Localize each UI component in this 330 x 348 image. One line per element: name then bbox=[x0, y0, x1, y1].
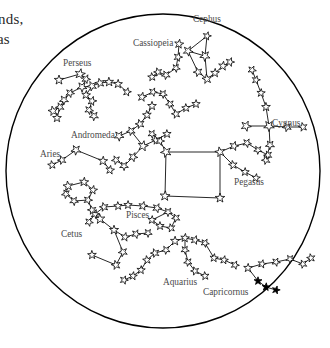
star-glyph bbox=[61, 190, 70, 199]
star-glyph bbox=[163, 130, 171, 138]
star-glyph bbox=[231, 261, 239, 269]
stars-layer bbox=[48, 32, 315, 294]
star-glyph bbox=[82, 75, 91, 84]
star-glyph bbox=[55, 103, 64, 112]
star-glyph bbox=[114, 132, 124, 142]
star-glyph bbox=[202, 74, 211, 83]
star-glyph bbox=[171, 110, 179, 119]
constellation-label-capricornus: Capricornus bbox=[203, 287, 249, 297]
star-glyph bbox=[203, 32, 211, 40]
star-glyph bbox=[241, 168, 249, 176]
star-glyph bbox=[258, 260, 266, 268]
star-glyph bbox=[53, 113, 62, 121]
constellation-label-cygnus: Cygnus bbox=[272, 118, 301, 128]
star-glyph bbox=[254, 146, 262, 154]
star-glyph bbox=[243, 139, 252, 148]
star-glyph bbox=[148, 73, 156, 81]
star-glyph bbox=[71, 146, 81, 156]
star-glyph bbox=[201, 272, 209, 280]
star-glyph bbox=[109, 225, 118, 234]
sky-map-svg: PerseusCassiopeiaCephusCygnusAndromedaAr… bbox=[0, 0, 330, 348]
star-glyph bbox=[230, 141, 239, 150]
star-glyph bbox=[124, 201, 132, 209]
star-glyph bbox=[273, 286, 281, 294]
star-glyph bbox=[48, 161, 56, 169]
star-glyph bbox=[54, 75, 64, 84]
star-glyph bbox=[191, 267, 199, 275]
star-glyph bbox=[161, 71, 170, 80]
star-glyph bbox=[77, 83, 87, 92]
constellation-label-cassiopeia: Cassiopeia bbox=[133, 38, 173, 48]
star-glyph bbox=[156, 222, 164, 230]
star-glyph bbox=[120, 276, 128, 284]
star-glyph bbox=[219, 61, 228, 70]
star-glyph bbox=[143, 256, 151, 264]
star-glyph bbox=[299, 260, 307, 268]
star-glyph bbox=[159, 90, 167, 98]
constellation-label-pisces: Pisces bbox=[126, 210, 150, 220]
star-glyph bbox=[164, 208, 173, 216]
constellation-line bbox=[165, 196, 220, 198]
star-glyph bbox=[162, 246, 170, 254]
star-glyph bbox=[111, 260, 120, 269]
star-glyph bbox=[166, 100, 174, 108]
star-glyph bbox=[257, 89, 265, 97]
star-glyph bbox=[70, 197, 79, 205]
constellation-labels-layer: PerseusCassiopeiaCephusCygnusAndromedaAr… bbox=[40, 14, 301, 297]
constellation-label-cetus: Cetus bbox=[61, 229, 83, 239]
star-glyph bbox=[63, 181, 72, 190]
constellation-label-cephus: Cephus bbox=[193, 14, 221, 24]
star-glyph bbox=[153, 204, 162, 213]
constellation-label-aquarius: Aquarius bbox=[163, 277, 197, 287]
star-glyph bbox=[89, 185, 98, 194]
star-glyph bbox=[88, 250, 97, 258]
star-glyph bbox=[104, 77, 113, 86]
star-glyph bbox=[248, 66, 256, 74]
star-glyph bbox=[220, 256, 228, 264]
star-glyph bbox=[121, 232, 130, 241]
star-glyph bbox=[89, 112, 98, 121]
star-glyph bbox=[191, 236, 199, 245]
star-glyph bbox=[215, 147, 225, 157]
star-glyph bbox=[252, 76, 260, 84]
star-glyph bbox=[85, 218, 93, 226]
star-glyph bbox=[210, 254, 218, 262]
star-glyph bbox=[167, 224, 175, 232]
star-glyph bbox=[272, 258, 280, 266]
star-glyph bbox=[111, 156, 120, 165]
star-glyph bbox=[137, 266, 145, 274]
star-glyph bbox=[192, 100, 200, 108]
constellation-label-aries: Aries bbox=[40, 149, 61, 159]
star-glyph bbox=[182, 104, 190, 112]
star-glyph bbox=[123, 88, 131, 96]
star-glyph bbox=[174, 53, 182, 62]
star-glyph bbox=[148, 101, 157, 109]
star-chart: nds, as PerseusCassiopeiaCephusCygnusAnd… bbox=[0, 0, 330, 348]
star-glyph bbox=[118, 248, 127, 257]
star-glyph bbox=[215, 193, 225, 202]
star-glyph bbox=[132, 230, 141, 239]
star-glyph bbox=[114, 202, 122, 210]
constellation-label-perseus: Perseus bbox=[63, 58, 92, 68]
star-glyph bbox=[160, 191, 170, 201]
star-glyph bbox=[149, 88, 157, 96]
star-glyph bbox=[129, 272, 137, 280]
constellation-line bbox=[92, 255, 116, 265]
constellation-label-andromeda: Andromeda bbox=[71, 130, 115, 140]
star-glyph bbox=[144, 229, 152, 237]
star-glyph bbox=[244, 263, 253, 271]
star-glyph bbox=[175, 39, 184, 48]
constellation-label-pegasus: Pegasus bbox=[234, 177, 264, 187]
star-glyph bbox=[193, 68, 202, 77]
constellation-line bbox=[165, 152, 166, 196]
star-glyph bbox=[201, 239, 209, 247]
star-glyph bbox=[99, 156, 108, 165]
star-glyph bbox=[138, 92, 147, 101]
star-glyph bbox=[241, 121, 251, 131]
star-glyph bbox=[143, 110, 152, 119]
star-glyph bbox=[286, 255, 294, 263]
